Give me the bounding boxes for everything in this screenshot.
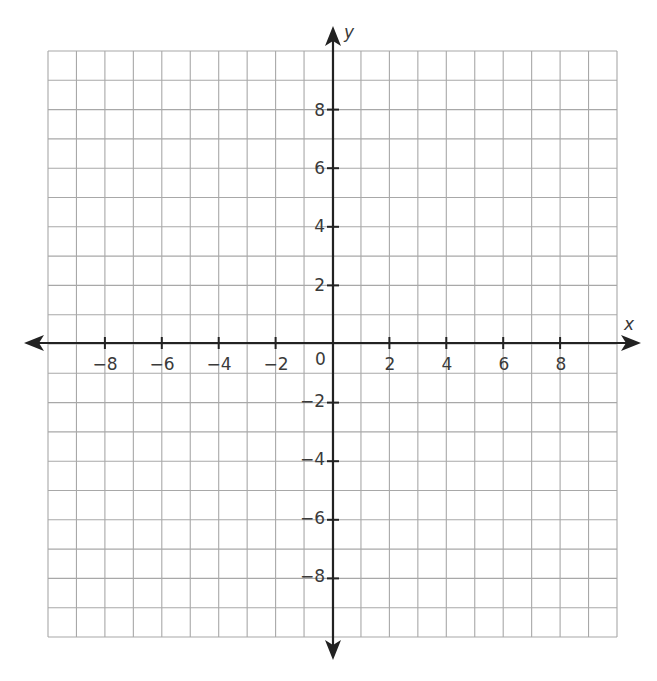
- axes: [24, 26, 641, 660]
- x-tick-label: 8: [556, 354, 567, 374]
- y-tick-label: −2: [300, 391, 325, 411]
- origin-label: 0: [315, 349, 326, 369]
- x-tick-label: −8: [92, 354, 117, 374]
- y-tick-label: 8: [314, 100, 325, 120]
- x-axis-label: x: [623, 314, 635, 334]
- y-tick-label: 2: [314, 275, 325, 295]
- y-axis-label: y: [343, 22, 355, 42]
- x-tick-label: −2: [263, 354, 288, 374]
- x-tick-label: −4: [206, 354, 231, 374]
- y-tick-label: −4: [300, 449, 325, 469]
- coordinate-plane: x y 0 −8 −6 −4 −2 2 4 6 8 8 6 4 2 −2 −4 …: [0, 0, 657, 681]
- tick-labels: x y 0 −8 −6 −4 −2 2 4 6 8 8 6 4 2 −2 −4 …: [92, 22, 635, 586]
- x-tick-label: −6: [149, 354, 174, 374]
- x-tick-label: 4: [442, 354, 453, 374]
- x-tick-label: 2: [385, 354, 396, 374]
- x-tick-label: 6: [499, 354, 510, 374]
- y-tick-label: 4: [314, 216, 325, 236]
- y-tick-label: −6: [300, 508, 325, 528]
- y-tick-label: 6: [314, 158, 325, 178]
- y-tick-label: −8: [300, 566, 325, 586]
